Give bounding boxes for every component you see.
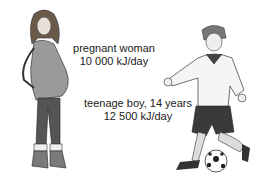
pregnant-woman-illustration xyxy=(14,8,72,176)
soccer-ball-icon xyxy=(205,150,227,172)
woman-label-title: pregnant woman xyxy=(62,42,166,55)
woman-label-energy: 10 000 kJ/day xyxy=(62,55,166,68)
teenage-boy-illustration xyxy=(158,20,264,175)
woman-label: pregnant woman 10 000 kJ/day xyxy=(62,42,166,68)
